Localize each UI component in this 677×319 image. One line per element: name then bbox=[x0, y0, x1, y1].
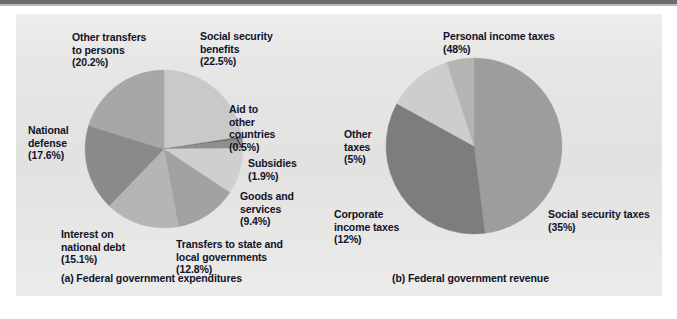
pie-label-other-transfers-to-persons: Other transfersto persons(20.2%) bbox=[72, 31, 146, 69]
pie-label-corporate-income-taxes: Corporateincome taxes(12%) bbox=[334, 208, 399, 246]
pie-label-line: Other bbox=[344, 128, 372, 141]
pie-label-line: (1.9%) bbox=[248, 170, 297, 183]
pie-label-national-defense: Nationaldefense(17.6%) bbox=[28, 124, 69, 162]
pie-label-line: (48%) bbox=[443, 43, 555, 56]
pie-label-line: (5%) bbox=[344, 153, 372, 166]
pie-label-social-security-benefits: Social securitybenefits(22.5%) bbox=[200, 30, 273, 68]
pie-label-line: (20.2%) bbox=[72, 56, 146, 69]
pie-label-line: Transfers to state and bbox=[176, 238, 283, 251]
pie-label-line: (17.6%) bbox=[28, 149, 69, 162]
pie-label-social-security-taxes: Social security taxes(35%) bbox=[548, 208, 650, 233]
pie-label-line: taxes bbox=[344, 141, 372, 154]
pie-label-line: benefits bbox=[200, 43, 273, 56]
pie-label-line: Social security bbox=[200, 30, 273, 43]
pie-label-line: defense bbox=[28, 137, 69, 150]
pie-label-line: Interest on bbox=[61, 228, 125, 241]
pie-label-line: Social security taxes bbox=[548, 208, 650, 221]
pie-label-line: other bbox=[229, 116, 275, 129]
pie-label-line: local governments bbox=[176, 251, 283, 264]
pie-label-line: Aid to bbox=[229, 103, 275, 116]
pie-label-line: Subsidies bbox=[248, 157, 297, 170]
charts-container: Other transfersto persons(20.2%) Social … bbox=[0, 0, 677, 319]
pie-label-line: (22.5%) bbox=[200, 55, 273, 68]
pie-label-line: countries bbox=[229, 128, 275, 141]
pie-label-line: (0.5%) bbox=[229, 141, 275, 154]
pie-label-line: (35%) bbox=[548, 221, 650, 234]
pie-label-line: (15.1%) bbox=[61, 253, 125, 266]
pie-label-personal-income-taxes: Personal income taxes(48%) bbox=[443, 30, 555, 55]
pie-label-aid-to-other-countries: Aid toothercountries(0.5%) bbox=[229, 103, 275, 153]
pie-label-line: Other transfers bbox=[72, 31, 146, 44]
pie-label-line: Corporate bbox=[334, 208, 399, 221]
pie-label-line: Goods and bbox=[240, 190, 294, 203]
pie-label-line: services bbox=[240, 203, 294, 216]
caption-left-chart: (a) Federal government expenditures bbox=[61, 272, 242, 284]
pie-label-line: (9.4%) bbox=[240, 215, 294, 228]
pie-label-goods-and-services: Goods andservices(9.4%) bbox=[240, 190, 294, 228]
pie-label-interest-on-national-debt: Interest onnational debt(15.1%) bbox=[61, 228, 125, 266]
pie-label-line: national debt bbox=[61, 241, 125, 254]
pie-label-line: income taxes bbox=[334, 221, 399, 234]
pie-label-transfers-to-state-and-local-governments: Transfers to state andlocal governments(… bbox=[176, 238, 283, 276]
pie-label-line: (12%) bbox=[334, 233, 399, 246]
pie-label-line: to persons bbox=[72, 44, 146, 57]
pie-label-line: National bbox=[28, 124, 69, 137]
pie-label-other-taxes: Othertaxes(5%) bbox=[344, 128, 372, 166]
figure-root: Other transfersto persons(20.2%) Social … bbox=[0, 0, 677, 319]
pie-label-line: Personal income taxes bbox=[443, 30, 555, 43]
pie-slice-personal-income-taxes bbox=[474, 58, 562, 233]
pie-label-subsidies: Subsidies(1.9%) bbox=[248, 157, 297, 182]
caption-right-chart: (b) Federal government revenue bbox=[392, 272, 549, 284]
